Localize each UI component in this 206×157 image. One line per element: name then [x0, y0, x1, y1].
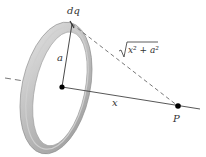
ring-of-charge-diagram: dq a x² + a² x P [0, 0, 206, 157]
charged-ring [9, 15, 103, 157]
label-a: a [57, 52, 63, 63]
point-p-dot [175, 103, 181, 109]
label-dq: dq [67, 5, 80, 16]
label-p: P [172, 113, 180, 124]
label-sqrt-content: x² + a² [128, 45, 159, 55]
ring-center-dot [59, 84, 64, 89]
label-x: x [112, 97, 118, 108]
label-distance-expression: x² + a² [119, 42, 159, 57]
